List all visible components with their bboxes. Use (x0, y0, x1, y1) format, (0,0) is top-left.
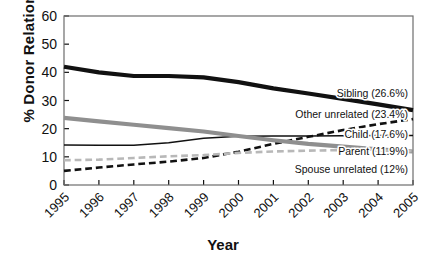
series-label-parent: Parent (11.9%) (338, 145, 408, 157)
x-axis-title: Year (0, 236, 446, 253)
x-tick-label: 2003 (320, 190, 351, 221)
x-tick-label: 2005 (390, 190, 421, 221)
y-tick-label: 30 (41, 93, 57, 109)
series-label-sibling: Sibling (26.6%) (337, 87, 408, 99)
y-tick-label: 50 (41, 36, 57, 52)
y-tick-label: 60 (41, 8, 57, 24)
y-axis-title: % Donor Relation (20, 0, 37, 139)
line-chart-plot: 0102030405060 19951996199719981999200020… (0, 0, 446, 265)
x-tick-label: 1995 (41, 190, 72, 221)
x-tick-label: 2002 (285, 190, 316, 221)
y-tick-label-group: 0102030405060 (41, 8, 57, 193)
x-tick-label: 2004 (355, 190, 386, 221)
y-tick-label: 20 (41, 121, 57, 137)
x-tick-mark-group (64, 180, 413, 185)
y-tick-label: 40 (41, 64, 57, 80)
x-tick-label: 2001 (250, 190, 281, 221)
y-tick-label: 10 (41, 149, 57, 165)
x-tick-label: 1998 (146, 190, 177, 221)
series-label-child: Child (17.6%) (344, 128, 408, 140)
chart-container: % Donor Relation Year 0102030405060 1995… (0, 0, 446, 265)
series-label-spouse-unrelated: Spouse unrelated (12%) (295, 163, 408, 175)
x-tick-label-group: 1995199619971998199920002001200220032004… (41, 190, 421, 221)
y-tick-label: 0 (49, 177, 57, 193)
x-tick-label: 1996 (76, 190, 107, 221)
series-label-other-unrelated: Other unrelated (23.4%) (295, 108, 408, 120)
x-tick-label: 1999 (181, 190, 212, 221)
x-tick-label: 1997 (111, 190, 142, 221)
x-tick-label: 2000 (216, 190, 247, 221)
